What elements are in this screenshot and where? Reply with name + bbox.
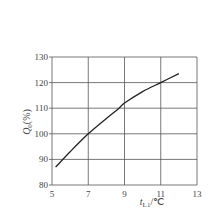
y-tick-label: 80: [39, 180, 49, 190]
x-tick-label: 7: [86, 189, 91, 199]
y-tick-label: 100: [35, 129, 49, 139]
x-tick-label: 5: [50, 189, 55, 199]
line-chart: 8090100110120130 5791113 tL1/℃ Q0(%): [0, 0, 213, 222]
y-axis-label: Q0(%): [21, 109, 34, 135]
x-tick-label: 9: [122, 189, 127, 199]
y-tick-label: 120: [35, 78, 49, 88]
x-axis-label: tL1/℃: [140, 196, 164, 209]
y-tick-label: 90: [39, 154, 49, 164]
y-tick-label: 130: [35, 52, 49, 62]
y-axis-ticks: 8090100110120130: [35, 52, 49, 190]
y-tick-label: 110: [35, 103, 49, 113]
x-axis-ticks: 5791113: [50, 189, 202, 199]
x-tick-label: 13: [193, 189, 203, 199]
